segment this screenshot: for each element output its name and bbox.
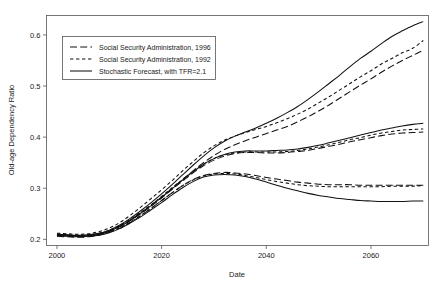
series-line	[57, 132, 423, 236]
legend-label-ssa-1992: Social Security Administration, 1992	[99, 56, 211, 64]
chart-legend: Social Security Administration, 1996 Soc…	[63, 37, 216, 80]
line-chart: 0.20.30.40.50.6 2000202020402060 Date Ol…	[0, 0, 445, 289]
y-tick-label: 0.3	[30, 184, 40, 193]
series-line	[57, 123, 423, 235]
y-tick-label: 0.4	[30, 133, 40, 142]
x-tick-label: 2040	[258, 251, 275, 260]
series-line	[57, 172, 423, 237]
legend-label-ssa-1996: Social Security Administration, 1996	[99, 44, 211, 52]
series-line	[57, 129, 423, 235]
x-axis-title: Date	[229, 270, 245, 279]
x-tick-label: 2020	[153, 251, 170, 260]
x-axis-ticks: 2000202020402060	[49, 246, 380, 260]
y-tick-label: 0.2	[30, 235, 40, 244]
y-tick-label: 0.5	[30, 82, 40, 91]
x-tick-label: 2000	[49, 251, 66, 260]
y-axis-ticks: 0.20.30.40.50.6	[30, 31, 46, 244]
x-tick-label: 2060	[363, 251, 380, 260]
chart-figure: 0.20.30.40.50.6 2000202020402060 Date Ol…	[0, 0, 445, 289]
y-tick-label: 0.6	[30, 31, 40, 40]
legend-label-stochastic: Stochastic Forecast, with TFR=2.1	[99, 68, 206, 75]
y-axis-title: Old-age Dependency Ratio	[7, 85, 16, 175]
